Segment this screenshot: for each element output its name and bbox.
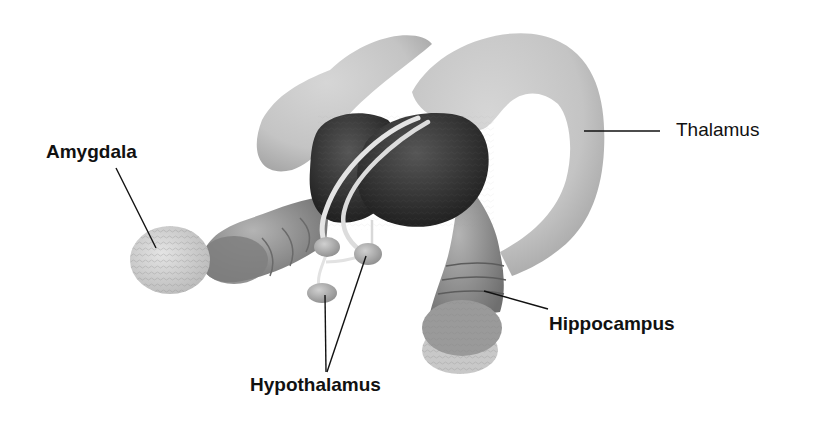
hypothalamus-leader-line-1 xyxy=(325,295,326,372)
hypothalamus-leader-line-2 xyxy=(327,256,366,372)
diagram-artwork xyxy=(0,0,816,422)
limbic-system-diagram: Amygdala Thalamus Hippocampus Hypothalam… xyxy=(0,0,816,422)
hippocampus-label: Hippocampus xyxy=(549,313,675,335)
hypothalamus-label: Hypothalamus xyxy=(250,374,381,396)
amygdala-leader-line xyxy=(116,168,156,248)
thalamus-label: Thalamus xyxy=(676,119,759,141)
amygdala-structure xyxy=(130,226,210,294)
left-tail-segments xyxy=(200,196,330,284)
dark-central-mass xyxy=(310,112,494,230)
amygdala-label: Amygdala xyxy=(46,141,137,163)
hypothalamus-nodes xyxy=(307,237,382,303)
